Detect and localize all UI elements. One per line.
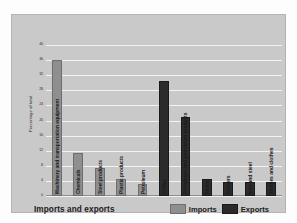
y-tick-label: 4 [41, 179, 43, 183]
legend-label-exports: Exports [241, 205, 269, 214]
chart-title: Imports and exports [34, 205, 115, 214]
y-axis-title: Percentage of total [28, 95, 33, 131]
y-tick-label: 40 [39, 43, 43, 47]
bar-category-label: Textiles and clothes [269, 148, 274, 194]
y-tick-label: 36 [39, 58, 43, 62]
bar-slot: Petroleum [132, 45, 153, 196]
y-tick-label: 16 [39, 134, 43, 138]
bar-category-label: Fruits [204, 180, 209, 194]
bar-slot: Petroleum and petroleum products [175, 45, 196, 196]
bar-slot: Textiles and clothes [261, 45, 282, 196]
bar-slot: Machinery and transportation equipment [46, 45, 67, 196]
y-tick-label: 28 [39, 89, 43, 93]
bar-category-label: Iron and steel [247, 162, 252, 194]
chart-panel: Percentage of total 4036322824201612840 … [11, 14, 286, 213]
bar-category-label: Petroleum [140, 170, 145, 194]
bar-category-label: Chemicals [76, 169, 81, 194]
plot-area: 4036322824201612840 Machinery and transp… [46, 45, 282, 196]
y-tick-label: 8 [41, 164, 43, 168]
bar-slot: Plastic products [110, 45, 131, 196]
bar-category-label: Petroleum and petroleum products [183, 113, 188, 194]
y-tick-label: 0 [41, 194, 43, 198]
chart-figure: Percentage of total 4036322824201612840 … [0, 0, 297, 223]
bar-slot: Coffee [153, 45, 174, 196]
bar-slot: Flowers [218, 45, 239, 196]
gridline [46, 196, 282, 197]
legend-label-imports: Imports [189, 205, 217, 214]
y-tick-label: 24 [39, 104, 43, 108]
bar-category-label: Flowers [226, 175, 231, 194]
bar-slot: Chemicals [67, 45, 88, 196]
bar-slot: Iron and steel [239, 45, 260, 196]
y-tick-label: 12 [39, 149, 43, 153]
legend-swatch-exports [222, 204, 238, 214]
bar-slot: Fruits [196, 45, 217, 196]
bar-slot: Steel products [89, 45, 110, 196]
bar-category-label: Machinery and transportation equipment [54, 99, 59, 194]
bar-category-label: Steel products [97, 160, 102, 194]
legend-entry-exports: Exports [222, 204, 269, 214]
legend-entry-imports: Imports [170, 204, 217, 214]
bar-category-label: Plastic products [119, 156, 124, 194]
bar-category-label: Coffee [161, 179, 166, 194]
chart-legend: Imports Exports [170, 204, 269, 214]
bar-group: Machinery and transportation equipmentCh… [46, 45, 282, 196]
y-tick-label: 32 [39, 73, 43, 77]
legend-swatch-imports [170, 204, 186, 214]
y-tick-label: 20 [39, 119, 43, 123]
